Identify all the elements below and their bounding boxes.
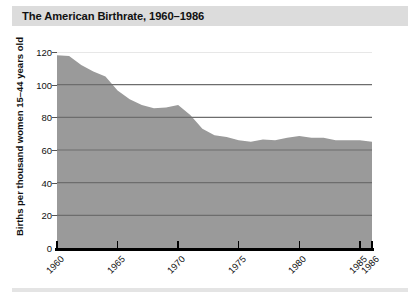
x-tick-mark-1975 (238, 241, 240, 249)
y-tick-label-60: 60 (26, 146, 52, 156)
x-tick-mark-1960 (56, 241, 58, 249)
birthrate-area-chart: Births per thousand women 15–44 years ol… (0, 28, 419, 276)
y-tick-label-0: 0 (26, 244, 52, 254)
x-tick-label-1980: 1980 (281, 254, 308, 281)
y-tick-label-40: 40 (26, 179, 52, 189)
area-series-svg (57, 52, 372, 248)
x-tick-mark-1970 (177, 241, 179, 249)
x-tick-label-1965: 1965 (100, 254, 127, 281)
y-tick-label-120: 120 (26, 48, 52, 58)
y-axis-tick-labels: 120 100 80 60 40 20 0 (22, 28, 52, 276)
y-tick-label-80: 80 (26, 113, 52, 123)
y-tick-label-100: 100 (26, 81, 52, 91)
footer-rule (12, 288, 408, 292)
chart-title-bar: The American Birthrate, 1960–1986 (12, 6, 408, 26)
plot-area (57, 52, 372, 248)
x-tick-mark-1980 (299, 241, 301, 249)
x-tick-label-1970: 1970 (160, 254, 187, 281)
x-tick-label-1975: 1975 (221, 254, 248, 281)
page-title: The American Birthrate, 1960–1986 (22, 10, 204, 22)
x-axis-line (55, 248, 374, 251)
x-tick-mark-1965 (117, 241, 119, 249)
y-tick-label-20: 20 (26, 211, 52, 221)
x-tick-mark-1985 (359, 241, 361, 249)
x-tick-mark-1986 (371, 241, 373, 249)
